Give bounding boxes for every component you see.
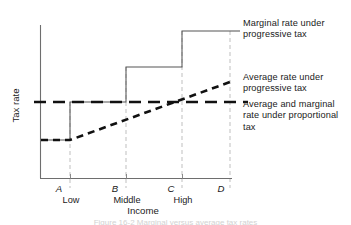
series-average-progressive [41, 82, 230, 140]
x-tick-letter-b: B [105, 183, 125, 194]
y-axis-title: Tax rate [10, 76, 21, 136]
x-tick-letter-c: C [161, 183, 181, 194]
x-tick-letter-a: A [49, 183, 69, 194]
figure-container: Marginal rate under progressive tax Aver… [0, 0, 351, 225]
annotation-average-progressive: Average rate under progressive tax [243, 72, 323, 95]
x-tick-word-middle: Middle [105, 195, 149, 205]
figure-caption: Figure 16-2 Marginal versus average tax … [0, 218, 351, 225]
x-tick-letter-d: D [211, 183, 231, 194]
x-axis-title: Income [113, 205, 173, 216]
x-tick-word-high: High [161, 195, 205, 205]
annotation-proportional: Average and marginal rate under proporti… [243, 99, 338, 133]
annotation-marginal-progressive: Marginal rate under progressive tax [243, 18, 325, 41]
x-tick-word-low: Low [49, 195, 93, 205]
gridlines [70, 31, 230, 188]
series-marginal-progressive [41, 31, 230, 140]
